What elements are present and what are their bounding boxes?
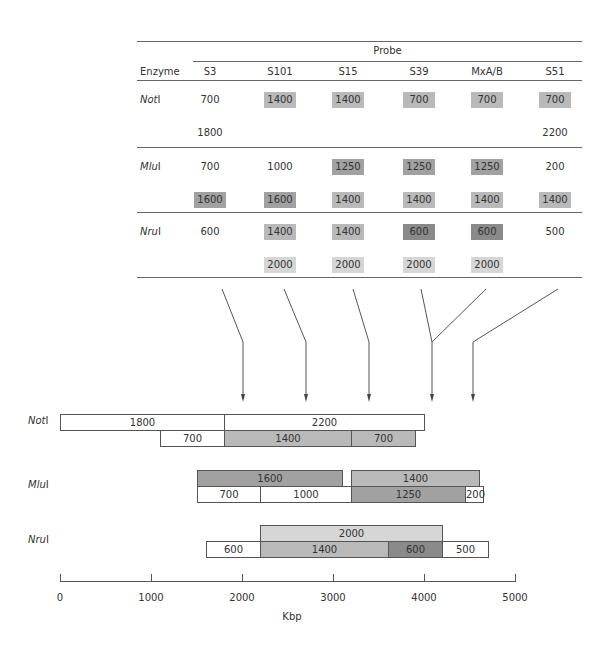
probe-arrow-0 bbox=[222, 289, 245, 402]
axis-tick-label: 0 bbox=[40, 592, 80, 603]
map-fragment: 1800 bbox=[60, 414, 225, 431]
arrowhead-icon bbox=[430, 394, 434, 402]
axis-tick bbox=[333, 574, 334, 582]
axis-tick-label: 2000 bbox=[222, 592, 262, 603]
axis-tick-label: 3000 bbox=[313, 592, 353, 603]
map-fragment: 600 bbox=[388, 541, 443, 558]
map-enzyme-label-root: Not bbox=[28, 415, 46, 426]
map-fragment: 1400 bbox=[224, 430, 352, 447]
map-fragment: 1000 bbox=[260, 486, 352, 503]
map-enzyme-label-suffix: I bbox=[46, 415, 49, 426]
probe-arrow-2 bbox=[353, 289, 371, 402]
arrowhead-icon bbox=[367, 394, 371, 402]
map-fragment: 1400 bbox=[260, 541, 389, 558]
map-fragment: 1250 bbox=[351, 486, 466, 503]
map-fragment: 700 bbox=[197, 486, 261, 503]
map-enzyme-label-suffix: I bbox=[46, 534, 49, 545]
map-fragment: 700 bbox=[160, 430, 225, 447]
axis-tick bbox=[424, 574, 425, 582]
axis-tick-label: 1000 bbox=[131, 592, 171, 603]
map-fragment: 2000 bbox=[260, 525, 443, 542]
axis-tick-label: 4000 bbox=[404, 592, 444, 603]
probe-arrow-3 bbox=[421, 289, 486, 402]
probe-arrow-4 bbox=[471, 289, 558, 402]
map-fragment: 500 bbox=[442, 541, 489, 558]
axis-tick bbox=[242, 574, 243, 582]
axis-tick bbox=[151, 574, 152, 582]
map-enzyme-label: MluI bbox=[28, 479, 49, 490]
probe-arrow-1 bbox=[284, 289, 308, 402]
axis-tick-label: 5000 bbox=[495, 592, 535, 603]
map-fragment: 200 bbox=[465, 486, 484, 503]
map-fragment: 700 bbox=[351, 430, 416, 447]
axis-line bbox=[60, 581, 516, 582]
map-enzyme-label-root: Nru bbox=[28, 534, 46, 545]
map-enzyme-label-root: Mlu bbox=[28, 479, 46, 490]
axis-tick bbox=[515, 574, 516, 582]
arrowhead-icon bbox=[471, 394, 475, 402]
map-fragment: 600 bbox=[206, 541, 261, 558]
map-enzyme-label-suffix: I bbox=[46, 479, 49, 490]
map-fragment: 1400 bbox=[351, 470, 480, 487]
map-fragment: 1600 bbox=[197, 470, 343, 487]
map-enzyme-label: NotI bbox=[28, 415, 48, 426]
arrowhead-icon bbox=[304, 394, 308, 402]
axis-tick bbox=[60, 574, 61, 582]
axis-label: Kbp bbox=[262, 611, 322, 622]
map-fragment: 2200 bbox=[224, 414, 425, 431]
map-enzyme-label: NruI bbox=[28, 534, 49, 545]
arrowhead-icon bbox=[241, 394, 245, 402]
